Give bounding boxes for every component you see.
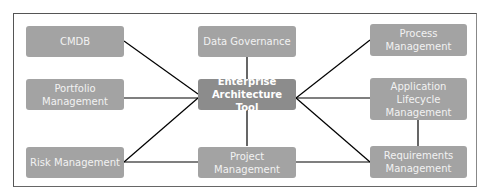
- node-application-lifecycle-management: Application Lifecycle Management: [370, 78, 467, 120]
- node-label: Management: [386, 40, 452, 53]
- node-label: Lifecycle: [397, 93, 441, 106]
- node-label: Management: [42, 95, 108, 108]
- node-cmdb: CMDB: [26, 26, 124, 57]
- node-portfolio-management: Portfolio Management: [26, 79, 124, 110]
- edge-risk-eat: [124, 98, 198, 162]
- edge-process-eat: [296, 40, 370, 98]
- node-label: Architecture Tool: [200, 88, 294, 114]
- node-label: Management: [386, 162, 452, 175]
- node-label: Management: [214, 163, 280, 176]
- node-label: Data Governance: [203, 35, 290, 48]
- edge-requirements-eat: [296, 98, 370, 162]
- edge-cmdb-eat: [124, 41, 198, 94]
- node-risk-management: Risk Management: [26, 147, 124, 178]
- node-label: Project: [230, 150, 264, 163]
- node-label: Application: [391, 80, 447, 93]
- node-label: CMDB: [60, 35, 90, 48]
- node-process-management: Process Management: [370, 24, 467, 56]
- node-label: Requirements: [384, 149, 454, 162]
- node-label: Portfolio: [54, 82, 95, 95]
- node-enterprise-architecture-tool: Enterprise Architecture Tool: [198, 79, 296, 110]
- node-label: Process: [400, 27, 438, 40]
- node-requirements-management: Requirements Management: [370, 146, 467, 178]
- node-label: Management: [386, 106, 452, 119]
- node-label: Enterprise: [218, 75, 277, 88]
- node-label: Risk Management: [30, 156, 120, 169]
- node-project-management: Project Management: [198, 147, 296, 178]
- node-data-governance: Data Governance: [198, 26, 296, 57]
